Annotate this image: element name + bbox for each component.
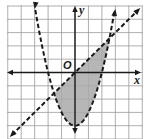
coordinate-graph: y x O	[0, 0, 148, 139]
x-axis-label: x	[133, 73, 140, 87]
origin-label: O	[63, 59, 72, 71]
y-axis-up-arrow-icon	[72, 6, 77, 12]
parabola-left-arrow-icon	[33, 2, 39, 9]
parabola-right-arrow-icon	[111, 9, 117, 16]
y-axis-down-arrow-icon	[72, 128, 77, 134]
y-axis-label: y	[77, 3, 85, 17]
line-lower-arrow-icon	[10, 130, 17, 137]
